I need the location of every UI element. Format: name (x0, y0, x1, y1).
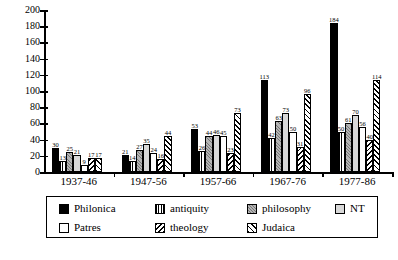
bar: 44 (205, 136, 212, 172)
bar-value-label: 25 (67, 146, 74, 153)
y-tick-mark (40, 156, 48, 158)
bar: 35 (143, 144, 150, 172)
bar-value-label: 56 (359, 121, 366, 128)
y-tick-mark (40, 59, 48, 61)
bar: 21 (122, 155, 129, 172)
legend-item: NT (335, 203, 365, 214)
bar: 45 (220, 136, 227, 172)
bar: 14 (129, 161, 136, 172)
legend-swatch (335, 204, 345, 214)
y-tick-label: 80 (30, 102, 40, 112)
bar: 73 (234, 113, 241, 172)
legend-row-2: PatrestheologyJudaica (47, 218, 377, 237)
legend-label: Judaica (262, 222, 295, 233)
bar-value-label: 96 (304, 88, 311, 95)
bar-value-label: 21 (74, 149, 81, 156)
x-category-label: 1967-76 (253, 176, 323, 187)
y-tick-label: 140 (25, 54, 40, 64)
x-axis-separator (392, 172, 394, 177)
x-category-label: 1957-66 (183, 176, 253, 187)
legend-swatch (155, 204, 165, 214)
bar: 61 (345, 123, 352, 172)
y-tick-label: 160 (25, 37, 40, 47)
bar: 30 (52, 148, 59, 172)
bar: 63 (275, 121, 282, 172)
y-tick-mark (40, 107, 48, 109)
bar-value-label: 31 (297, 141, 304, 148)
legend-item: philosophy (247, 203, 311, 214)
bar: 46 (213, 135, 220, 172)
bar: 56 (359, 127, 366, 172)
legend-item: Patres (59, 222, 101, 233)
legend-item: antiquity (155, 203, 209, 214)
bar-chart: 020406080100120140160180200 301325219171… (0, 0, 398, 260)
legend-label: philosophy (262, 203, 311, 214)
bar-value-label: 30 (52, 142, 59, 149)
chart-legend: PhilonicaantiquityphilosophyNT Patresthe… (46, 196, 378, 238)
bar-group: 1845061705640114 (330, 10, 380, 172)
bar: 70 (352, 115, 359, 172)
legend-label: NT (350, 203, 365, 214)
legend-label: theology (170, 222, 209, 233)
bar-group: 113426373503196 (261, 10, 311, 172)
legend-swatch (59, 223, 69, 233)
bar-value-label: 24 (150, 147, 157, 154)
bar-value-label: 53 (192, 123, 199, 130)
y-tick-mark (40, 75, 48, 77)
bar: 13 (59, 161, 66, 172)
legend-item: theology (155, 222, 209, 233)
bar-value-label: 27 (136, 144, 143, 151)
bar-value-label: 9 (83, 159, 86, 166)
bar: 26 (198, 151, 205, 172)
y-tick-label: 0 (35, 167, 40, 177)
x-category-label: 1937-46 (44, 176, 114, 187)
y-tick-mark (40, 91, 48, 93)
bar: 96 (304, 94, 311, 172)
bar-value-label: 61 (345, 117, 352, 124)
bar-group: 21142735241644 (122, 10, 172, 172)
bar-value-label: 42 (268, 132, 275, 139)
bar-value-label: 26 (199, 145, 206, 152)
legend-item: Judaica (247, 222, 295, 233)
legend-swatch (155, 223, 165, 233)
bar-value-label: 73 (234, 107, 241, 114)
bar: 17 (95, 158, 102, 172)
bar-value-label: 23 (227, 147, 234, 154)
plot-area: 020406080100120140160180200 301325219171… (44, 10, 392, 172)
bar: 114 (373, 80, 380, 172)
y-tick-label: 100 (25, 86, 40, 96)
bar-value-label: 17 (88, 152, 95, 159)
y-tick-mark (40, 26, 48, 28)
bar-value-label: 50 (338, 126, 345, 133)
legend-swatch (247, 204, 257, 214)
bar: 24 (150, 153, 157, 172)
bar: 17 (88, 158, 95, 172)
y-tick-mark (40, 10, 48, 12)
bar: 21 (73, 155, 80, 172)
bar: 16 (157, 159, 164, 172)
bar-value-label: 45 (220, 130, 227, 137)
y-tick-label: 180 (25, 21, 40, 31)
bar-value-label: 40 (366, 134, 373, 141)
bar-value-label: 184 (329, 17, 339, 24)
bar: 31 (297, 147, 304, 172)
bar: 50 (289, 132, 296, 173)
legend-label: Philonica (74, 203, 116, 214)
y-tick-mark (40, 172, 48, 174)
y-tick-mark (40, 42, 48, 44)
legend-label: antiquity (170, 203, 209, 214)
x-category-label: 1947-56 (114, 176, 184, 187)
bar: 40 (366, 140, 373, 172)
bar-value-label: 35 (143, 138, 150, 145)
y-tick-label: 20 (30, 151, 40, 161)
bar-value-label: 70 (352, 109, 359, 116)
bar-value-label: 63 (275, 115, 282, 122)
bar: 42 (268, 138, 275, 172)
bar-value-label: 44 (206, 130, 213, 137)
y-tick-mark (40, 123, 48, 125)
bar: 44 (164, 136, 171, 172)
bar-group: 3013252191717 (52, 10, 102, 172)
bar-value-label: 113 (260, 74, 270, 81)
bar-value-label: 44 (165, 130, 172, 137)
bar: 23 (227, 153, 234, 172)
